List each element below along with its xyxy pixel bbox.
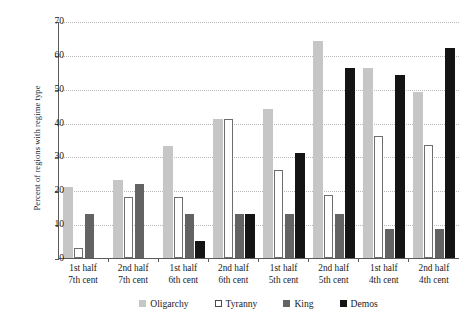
bar-king bbox=[385, 229, 395, 258]
y-axis-tick-label: 30 bbox=[38, 152, 64, 162]
bar-tyranny bbox=[224, 119, 234, 258]
bar-group bbox=[309, 22, 359, 258]
legend-label: Tyranny bbox=[226, 298, 258, 309]
bar-tyranny bbox=[124, 197, 134, 258]
bar-group bbox=[359, 22, 409, 258]
x-axis-label: 2nd half5th cent bbox=[309, 263, 359, 286]
legend-label: King bbox=[294, 298, 313, 309]
legend-label: Demos bbox=[351, 298, 378, 309]
legend-item-demos[interactable]: Demos bbox=[340, 298, 378, 309]
bar-tyranny bbox=[74, 248, 84, 258]
y-axis-tick-label: 20 bbox=[38, 186, 64, 196]
bar-demos bbox=[345, 68, 355, 258]
bar-demos bbox=[295, 153, 305, 258]
bar-demos bbox=[445, 48, 455, 258]
y-axis-tick-label: 60 bbox=[38, 51, 64, 61]
legend-item-tyranny[interactable]: Tyranny bbox=[215, 298, 258, 309]
legend-item-oligarchy[interactable]: Oligarchy bbox=[139, 298, 188, 309]
bar-oligarchy bbox=[63, 187, 73, 258]
bar-king bbox=[335, 214, 345, 258]
x-axis-label: 1st half7th cent bbox=[58, 263, 108, 286]
bar-oligarchy bbox=[213, 119, 223, 258]
bar-demos bbox=[195, 241, 205, 258]
y-axis-tick-label: 50 bbox=[38, 85, 64, 95]
x-axis-label: 1st half4th cent bbox=[359, 263, 409, 286]
y-axis-tick-label: 10 bbox=[38, 220, 64, 230]
bar-oligarchy bbox=[263, 109, 273, 258]
bar-king bbox=[185, 214, 195, 258]
x-axis-label: 2nd half4th cent bbox=[409, 263, 459, 286]
bar-king bbox=[235, 214, 245, 258]
y-axis-tick-label: 70 bbox=[38, 17, 64, 27]
bar-oligarchy bbox=[313, 41, 323, 258]
legend-item-king[interactable]: King bbox=[283, 298, 313, 309]
x-axis-label: 1st half6th cent bbox=[158, 263, 208, 286]
bar-tyranny bbox=[324, 195, 334, 258]
bar-tyranny bbox=[424, 145, 434, 258]
x-axis-label: 2nd half6th cent bbox=[208, 263, 258, 286]
bar-group bbox=[159, 22, 209, 258]
plot-area bbox=[58, 22, 459, 259]
bar-tyranny bbox=[274, 170, 284, 258]
legend-label: Oligarchy bbox=[150, 298, 188, 309]
legend-swatch-icon bbox=[283, 300, 290, 307]
y-axis-tick-label: 40 bbox=[38, 119, 64, 129]
x-axis-tick-labels: 1st half7th cent2nd half7th cent1st half… bbox=[58, 263, 459, 286]
bar-demos bbox=[245, 214, 255, 258]
bar-oligarchy bbox=[163, 146, 173, 258]
bar-king bbox=[435, 229, 445, 258]
bar-oligarchy bbox=[363, 68, 373, 258]
legend-swatch-icon bbox=[139, 300, 146, 307]
bar-group bbox=[209, 22, 259, 258]
bar-group bbox=[409, 22, 459, 258]
x-axis-label: 1st half5th cent bbox=[259, 263, 309, 286]
bar-groups bbox=[59, 22, 459, 258]
x-axis-label: 2nd half7th cent bbox=[108, 263, 158, 286]
chart-legend: OligarchyTyrannyKingDemos bbox=[58, 298, 459, 309]
bar-tyranny bbox=[374, 136, 384, 258]
bar-king bbox=[285, 214, 295, 258]
bar-tyranny bbox=[174, 197, 184, 258]
bar-oligarchy bbox=[413, 92, 423, 258]
legend-swatch-icon bbox=[215, 300, 222, 307]
bar-oligarchy bbox=[113, 180, 123, 258]
bar-king bbox=[135, 184, 145, 258]
bar-group bbox=[259, 22, 309, 258]
legend-swatch-icon bbox=[340, 300, 347, 307]
bar-group bbox=[59, 22, 109, 258]
bar-demos bbox=[395, 75, 405, 258]
bar-chart: Percent of regions with regime type 7060… bbox=[0, 0, 469, 326]
bar-group bbox=[109, 22, 159, 258]
bar-king bbox=[85, 214, 95, 258]
